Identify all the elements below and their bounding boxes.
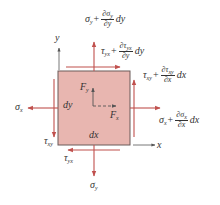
stress-diagram-canvas <box>0 0 220 205</box>
element-height-label: dy <box>63 100 72 110</box>
element-width-label: dx <box>89 130 98 140</box>
top-normal-stress-label: σy + ∂σy∂y dy <box>85 10 125 29</box>
right-normal-stress-label: σx + ∂σx∂x dx <box>159 111 199 130</box>
body-force-fy-label: Fy <box>80 82 89 93</box>
x-axis-label: x <box>157 140 161 150</box>
bottom-normal-stress-label: σy <box>90 180 98 191</box>
top-shear-stress-label: τyx + ∂τyx∂y dy <box>101 42 144 61</box>
right-shear-stress-label: τxy + ∂τxy∂x dx <box>143 66 186 85</box>
left-normal-stress-label: σx <box>15 102 23 113</box>
left-shear-stress-label: τxy <box>44 136 53 147</box>
y-axis-label: y <box>55 33 59 43</box>
bottom-shear-stress-label: τyx <box>64 153 73 164</box>
body-force-fx-label: Fx <box>110 110 119 121</box>
